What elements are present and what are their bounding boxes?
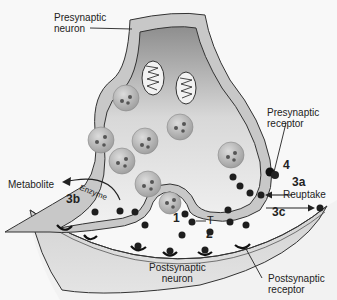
mitochondrion-1 <box>142 61 164 95</box>
reuptake-label: Reuptake <box>283 189 326 200</box>
presynaptic-receptor-label: Presynaptic receptor <box>267 107 319 129</box>
vesicle <box>88 127 114 153</box>
mitochondrion-2 <box>176 72 196 104</box>
step-3a: 3a <box>292 176 305 188</box>
vesicle <box>113 85 139 111</box>
synapse-illustration <box>0 0 337 300</box>
vesicle <box>218 142 244 168</box>
presynaptic-neuron-label: Presynaptic neuron <box>54 12 106 34</box>
vesicle <box>109 148 135 174</box>
vesicle <box>135 171 161 197</box>
presynaptic-terminal-shape <box>5 13 272 232</box>
step-3c: 3c <box>272 206 285 218</box>
transmitter-label: T <box>207 215 214 226</box>
postsynaptic-neuron-label: Postsynaptic neuron <box>149 262 206 284</box>
step-3b: 3b <box>66 193 80 205</box>
metabolite-arrowhead <box>62 177 71 186</box>
diffusion-arrowhead <box>308 205 315 212</box>
synapse-diagram: Presynaptic neuron Presynaptic receptor … <box>0 0 337 300</box>
step-1: 1 <box>173 212 180 224</box>
step-2: 2 <box>206 228 213 240</box>
step-4: 4 <box>283 159 290 171</box>
postsynaptic-receptor-label: Postsynaptic receptor <box>268 273 325 295</box>
vesicle <box>132 128 158 154</box>
vesicle <box>167 114 193 140</box>
metabolite-label: Metabolite <box>8 179 54 190</box>
